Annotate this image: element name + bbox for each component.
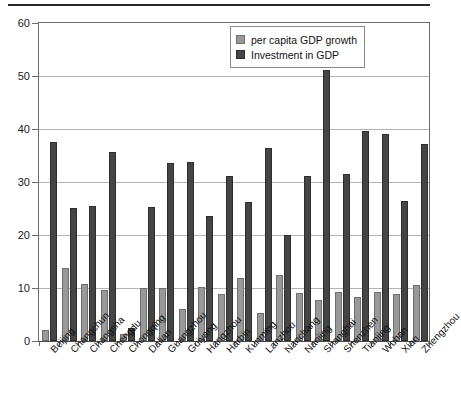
legend-swatch-icon-dark [236,50,245,59]
bar-investment-in-gdp [187,162,194,341]
bar-group [215,23,235,341]
bar-investment-in-gdp [245,202,252,341]
bar-investment-in-gdp [323,70,330,341]
y-tick-label: 60 [0,18,30,29]
bar-investment-in-gdp [50,142,57,341]
bar-investment-in-gdp [401,201,408,341]
bar-investment-in-gdp [343,174,350,341]
bar-group [156,23,176,341]
bar-investment-in-gdp [167,163,174,341]
bar-per-capita-gdp-growth [42,330,49,341]
bar-group [332,23,352,341]
bar-group [371,23,391,341]
bar-group [176,23,196,341]
bar-group [254,23,274,341]
y-tick-label: 20 [0,230,30,241]
bar-group [390,23,410,341]
bar-group [273,23,293,341]
bar-group [410,23,430,341]
y-tick-mark [32,129,38,130]
bar-investment-in-gdp [421,144,428,341]
legend-swatch-icon-light [236,35,245,44]
bar-group [137,23,157,341]
legend-item-investment-in-gdp: Investment in GDP [236,47,357,62]
y-tick-mark [32,341,38,342]
y-tick-mark [32,182,38,183]
bar-investment-in-gdp [70,208,77,341]
bar-investment-in-gdp [362,131,369,341]
legend-label-per-capita-gdp-growth: per capita GDP growth [251,34,357,46]
bars-layer [39,23,429,341]
bar-group [351,23,371,341]
bar-group [98,23,118,341]
y-tick-mark [32,23,38,24]
bar-investment-in-gdp [382,134,389,341]
y-tick-label: 30 [0,177,30,188]
bar-group [234,23,254,341]
x-axis-labels: BeijingChangchunChangshaChengduChongqing… [0,346,438,414]
y-tick-mark [32,288,38,289]
chart-legend: per capita GDP growth Investment in GDP [230,26,365,68]
bar-group [78,23,98,341]
bar-group [59,23,79,341]
bar-group [195,23,215,341]
legend-label-investment-in-gdp: Investment in GDP [251,49,339,61]
y-tick-label: 10 [0,283,30,294]
bar-group [293,23,313,341]
y-tick-mark [32,235,38,236]
bar-group [39,23,59,341]
bar-investment-in-gdp [109,152,116,341]
y-tick-mark [32,76,38,77]
y-tick-label: 50 [0,71,30,82]
bar-group [117,23,137,341]
y-tick-label: 40 [0,124,30,135]
top-divider-rule [8,4,430,6]
legend-item-per-capita-gdp-growth: per capita GDP growth [236,32,357,47]
bar-investment-in-gdp [265,148,272,341]
bar-group [312,23,332,341]
